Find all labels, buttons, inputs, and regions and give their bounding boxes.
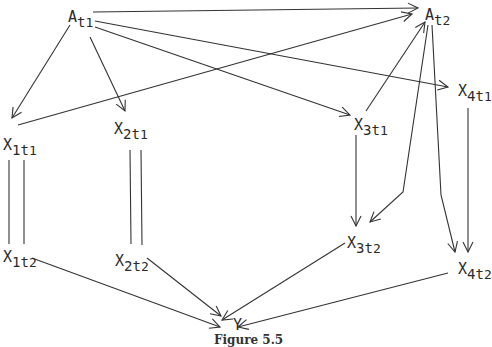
node-subsub: 2 (442, 13, 450, 28)
node-subsub: 2 (373, 241, 381, 256)
node-X-2t2: X2t2 (115, 254, 149, 269)
node-subsub: 1 (140, 127, 148, 142)
node-base: X (114, 120, 123, 138)
node-sub: 1t (12, 142, 29, 158)
node-subsub: 2 (141, 259, 149, 274)
edge-A_t2-to-X_4t2 (432, 25, 455, 252)
node-sub: 2t (123, 126, 140, 142)
node-sub: 1t (12, 254, 29, 270)
node-subsub: 1 (380, 123, 388, 138)
node-base: A (425, 6, 434, 24)
edge-X_3t2-to-Y (222, 243, 345, 320)
node-Y: Y (233, 318, 242, 333)
node-base: X (3, 136, 12, 154)
edges-group (9, 8, 468, 327)
figure-caption: Figure 5.5 (214, 333, 283, 347)
node-base: X (115, 252, 124, 270)
node-subsub: 1 (484, 89, 492, 104)
node-sub: 4t (467, 266, 484, 282)
edge-X_2t2-to-Y (147, 258, 221, 316)
node-X-3t1: X3t1 (354, 118, 388, 133)
node-base: X (458, 260, 467, 278)
node-X-4t1: X4t1 (458, 84, 492, 99)
node-base: X (354, 116, 363, 134)
node-sub: 4t (467, 88, 484, 104)
edge-A_t1-to-X_3t1 (95, 27, 350, 115)
node-X-3t2: X3t2 (347, 236, 381, 251)
node-sub: 2t (124, 258, 141, 274)
edge-A_t1-to-X_1t1 (12, 25, 70, 118)
node-base: X (3, 248, 12, 266)
node-X-2t1: X2t1 (114, 122, 148, 137)
node-sub: 3t (356, 240, 373, 256)
node-sub: 3t (363, 122, 380, 138)
node-X-1t2: X1t2 (3, 250, 37, 265)
node-A-t1: At1 (68, 10, 93, 25)
node-base: X (347, 234, 356, 252)
node-subsub: 2 (29, 255, 37, 270)
node-base: A (68, 8, 77, 26)
node-A-t2: At2 (425, 8, 450, 23)
node-subsub: 2 (484, 267, 492, 282)
edge-X_1t1-to-X_1t2 (9, 160, 24, 244)
node-X-1t1: X1t1 (3, 138, 37, 153)
edge-X_3t1-to-A_t2 (366, 22, 425, 111)
node-base: Y (233, 316, 242, 334)
node-subsub: 1 (85, 15, 93, 30)
node-X-4t2: X4t2 (458, 262, 492, 277)
edge-X_2t1-to-X_2t2 (130, 150, 142, 245)
node-base: X (458, 82, 467, 100)
edge-X_4t2-to-Y (238, 273, 448, 327)
edge-A_t1-to-A_t2 (93, 8, 418, 12)
node-subsub: 1 (29, 143, 37, 158)
